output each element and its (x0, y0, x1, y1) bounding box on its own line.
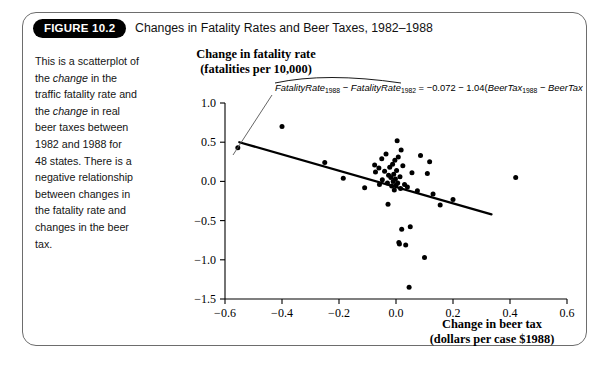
data-point (395, 138, 400, 143)
data-point (376, 166, 381, 171)
figure-header: FIGURE 10.2 Changes in Fatality Rates an… (23, 13, 586, 43)
data-point (341, 176, 346, 181)
data-point (407, 285, 412, 290)
y-axis-tick-labels: 1.00.50.0−0.5−1.0−1.5 (194, 96, 216, 306)
figure-number-badge: FIGURE 10.2 (33, 19, 126, 38)
data-point (372, 162, 377, 167)
data-point (422, 255, 427, 260)
x-tick-label: −0.4 (271, 306, 293, 320)
caption-line: the fatality rate and (35, 202, 147, 219)
data-point (438, 202, 443, 207)
data-point (395, 180, 400, 185)
caption-line: tax. (35, 236, 147, 253)
x-tick-label: 0.4 (503, 306, 518, 320)
data-point (392, 188, 397, 193)
y-tick-label: 0.0 (201, 174, 216, 188)
data-point (408, 224, 413, 229)
axis-lines (220, 103, 567, 304)
figure-caption: This is a scatterplot of the change in t… (35, 53, 147, 252)
caption-line: between changes in (35, 186, 147, 203)
data-point (451, 197, 456, 202)
data-point (394, 168, 399, 173)
regression-equation-annotation: FatalityRate1988 − FatalityRate1982 = −0… (233, 78, 583, 156)
data-point (396, 155, 401, 160)
caption-line: traffic fatality rate and (35, 86, 147, 103)
data-point (418, 153, 423, 158)
regression-line (239, 142, 491, 214)
figure-container: FIGURE 10.2 Changes in Fatality Rates an… (22, 12, 587, 346)
data-point (379, 156, 384, 161)
data-point (400, 163, 405, 168)
caption-line: 48 states. There is a (35, 153, 147, 170)
data-point (409, 170, 414, 175)
data-point (431, 191, 436, 196)
x-axis-tick-labels: −0.6−0.4−0.20.00.20.40.6 (214, 306, 574, 320)
data-point (405, 184, 410, 189)
data-point (425, 171, 430, 176)
x-tick-label: 0.6 (560, 306, 575, 320)
caption-line: beer taxes between (35, 119, 147, 136)
y-tick-label: 1.0 (201, 96, 216, 110)
figure-title: Changes in Fatality Rates and Beer Taxes… (135, 21, 433, 35)
data-point (427, 159, 432, 164)
caption-line: negative relationship (35, 169, 147, 186)
data-point (373, 169, 378, 174)
caption-line: the change in real (35, 103, 147, 120)
caption-line: the change in the (35, 70, 147, 87)
x-tick-label: 0.0 (389, 306, 404, 320)
data-point (397, 174, 402, 179)
data-point (280, 124, 285, 129)
data-point-group (235, 124, 518, 290)
regression-line-segment (239, 142, 491, 214)
data-point (399, 227, 404, 232)
data-point (362, 185, 367, 190)
x-tick-label: 0.2 (446, 306, 461, 320)
y-tick-label: 0.5 (201, 135, 216, 149)
scatter-plot: Change in fatality rate (fatalities per … (151, 47, 583, 339)
data-point (322, 160, 327, 165)
caption-line: This is a scatterplot of (35, 53, 147, 70)
data-point (382, 169, 387, 174)
data-point (386, 202, 391, 207)
regression-equation-text: FatalityRate1988 − FatalityRate1982 = −0… (275, 82, 583, 94)
caption-line: changes in the beer (35, 219, 147, 236)
data-point (513, 175, 518, 180)
data-point (384, 151, 389, 156)
chart-canvas: 1.00.50.0−0.5−1.0−1.5 −0.6−0.4−0.20.00.2… (151, 47, 583, 339)
y-tick-label: −1.0 (194, 253, 216, 267)
x-tick-label: −0.2 (328, 306, 350, 320)
caption-line: 1982 and 1988 for (35, 136, 147, 153)
data-point (403, 242, 408, 247)
data-point (399, 148, 404, 153)
y-tick-label: −1.5 (194, 292, 216, 306)
x-tick-label: −0.6 (214, 306, 236, 320)
y-tick-label: −0.5 (194, 214, 216, 228)
data-point (397, 242, 402, 247)
